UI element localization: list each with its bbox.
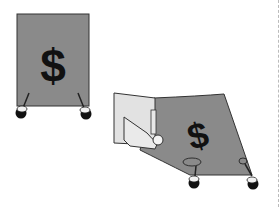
dollar-sign: $ [40,40,66,92]
page-edge-divider [278,0,280,207]
illustration: $ $ [0,0,280,207]
pin-right-icon [245,164,259,190]
card-one: $ [16,14,92,120]
